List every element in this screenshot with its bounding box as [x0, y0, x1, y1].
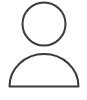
icon-background: [0, 0, 87, 100]
user-avatar-placeholder: User: [0, 0, 87, 100]
user-avatar-placeholder-icon: User: [0, 0, 87, 100]
